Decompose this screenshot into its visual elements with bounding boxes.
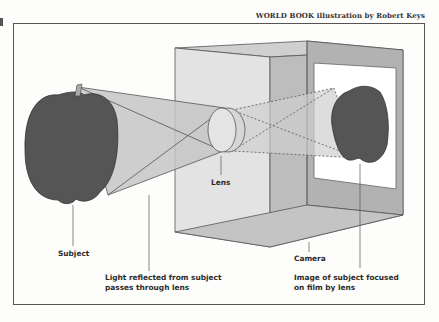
apple-image-icon [332, 86, 389, 162]
camera-label: Camera [294, 254, 326, 264]
subject-label: Subject [58, 249, 89, 259]
light-label-line1: Light reflected from subject [105, 273, 221, 283]
light-label-line2: passes through lens [105, 283, 189, 293]
apple-subject-icon [25, 84, 118, 204]
lens-label: Lens [211, 178, 230, 188]
image-label-line1: Image of subject focused [294, 273, 399, 283]
image-label-line2: on film by lens [294, 283, 355, 293]
lens-icon [208, 108, 245, 152]
